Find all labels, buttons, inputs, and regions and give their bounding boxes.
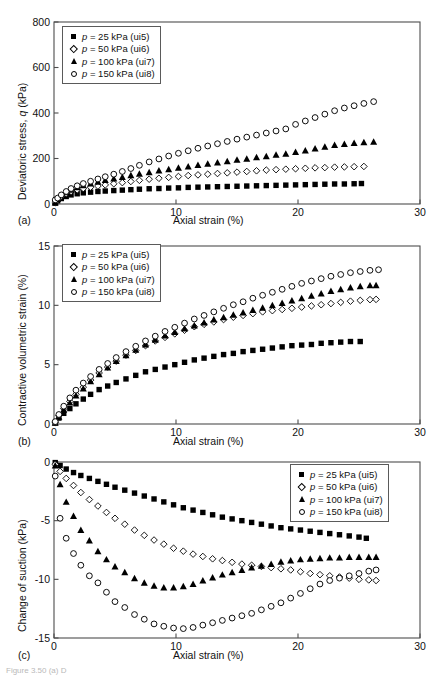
y-axis-label-c: Change of suction (kPa) — [16, 519, 28, 632]
y-axis-label-c-text: Change of suction (kPa) — [16, 519, 28, 632]
legend-item-ui8: p = 150 kPa (ui8) — [295, 506, 383, 519]
legend-item-ui6: p = 50 kPa (ui6) — [67, 43, 155, 56]
legend-item-ui8: p = 150 kPa (ui8) — [67, 286, 155, 299]
y-axis-label-a-text: Deviatoric stress, q (kPa) — [16, 83, 28, 200]
legend-label-ui5: p = 25 kPa (ui5) — [82, 249, 149, 260]
svg-text:600: 600 — [32, 61, 50, 73]
legend-item-ui6: p = 50 kPa (ui6) — [67, 261, 155, 274]
open-diamond-icon — [67, 46, 80, 52]
legend-label-ui5: p = 25 kPa (ui5) — [82, 31, 149, 42]
panel-letter-c: (c) — [18, 649, 30, 661]
series-open-circle — [52, 99, 376, 203]
legend-item-ui7: p = 100 kPa (ui7) — [67, 55, 155, 68]
legend-label-ui6: p = 50 kPa (ui6) — [82, 261, 149, 272]
legend-label-ui7: p = 100 kPa (ui7) — [310, 494, 383, 505]
legend-a: p = 25 kPa (ui5) p = 50 kPa (ui6) p = 10… — [62, 26, 161, 84]
svg-text:15: 15 — [38, 240, 50, 252]
legend-label-ui5: p = 25 kPa (ui5) — [310, 469, 377, 480]
legend-c: p = 25 kPa (ui5) p = 50 kPa (ui6) p = 10… — [290, 464, 389, 522]
legend-item-ui5: p = 25 kPa (ui5) — [295, 468, 383, 481]
svg-text:0: 0 — [44, 418, 50, 430]
legend-item-ui7: p = 100 kPa (ui7) — [295, 493, 383, 506]
svg-text:0: 0 — [51, 640, 57, 652]
svg-text:400: 400 — [32, 107, 50, 119]
svg-text:20: 20 — [292, 640, 304, 652]
filled-square-icon — [295, 472, 308, 478]
legend-label-ui6: p = 50 kPa (ui6) — [310, 481, 377, 492]
filled-square-icon — [67, 252, 80, 258]
legend-item-ui5: p = 25 kPa (ui5) — [67, 30, 155, 43]
svg-text:-5: -5 — [41, 514, 50, 526]
legend-label-ui7: p = 100 kPa (ui7) — [82, 56, 155, 67]
y-axis-label-b-text: Contractive volumetric strain (%) — [16, 274, 28, 426]
legend-label-ui8: p = 150 kPa (ui8) — [82, 286, 155, 297]
filled-square-icon — [67, 34, 80, 40]
svg-text:20: 20 — [292, 206, 304, 218]
panel-a: 01020300200400600800 Deviatoric stress, … — [0, 0, 443, 230]
open-circle-icon — [67, 71, 80, 77]
y-axis-label-b: Contractive volumetric strain (%) — [16, 274, 28, 426]
legend-label-ui8: p = 150 kPa (ui8) — [310, 506, 383, 517]
x-axis-label-a: Axial strain (%) — [173, 214, 244, 226]
svg-text:0: 0 — [44, 456, 50, 468]
panel-c: 01020300-5-10-15 Change of suction (kPa)… — [0, 452, 443, 677]
legend-b: p = 25 kPa (ui5) p = 50 kPa (ui6) p = 10… — [62, 244, 161, 302]
svg-text:0: 0 — [51, 206, 57, 218]
open-circle-icon — [295, 509, 308, 515]
svg-text:30: 30 — [414, 640, 426, 652]
panel-b: 0102030051015 Contractive volumetric str… — [0, 230, 443, 452]
open-circle-icon — [67, 289, 80, 295]
y-axis-label-a: Deviatoric stress, q (kPa) — [16, 83, 28, 200]
open-diamond-icon — [67, 264, 80, 270]
filled-triangle-icon — [67, 276, 80, 282]
series-open-diamond — [52, 296, 379, 425]
x-axis-label-c: Axial strain (%) — [173, 649, 244, 661]
svg-text:20: 20 — [292, 426, 304, 438]
legend-item-ui6: p = 50 kPa (ui6) — [295, 481, 383, 494]
filled-triangle-icon — [295, 496, 308, 502]
x-axis-label-b: Axial strain (%) — [173, 435, 244, 447]
figure-caption: Figure 3.50 (a) D — [6, 666, 66, 675]
filled-triangle-icon — [67, 58, 80, 64]
legend-label-ui6: p = 50 kPa (ui6) — [82, 43, 149, 54]
legend-item-ui5: p = 25 kPa (ui5) — [67, 248, 155, 261]
svg-text:0: 0 — [51, 426, 57, 438]
legend-item-ui8: p = 150 kPa (ui8) — [67, 68, 155, 81]
svg-text:800: 800 — [32, 16, 50, 28]
legend-item-ui7: p = 100 kPa (ui7) — [67, 273, 155, 286]
svg-text:30: 30 — [414, 206, 426, 218]
legend-label-ui7: p = 100 kPa (ui7) — [82, 274, 155, 285]
svg-text:-10: -10 — [35, 573, 50, 585]
panel-letter-b: (b) — [18, 435, 31, 447]
series-filled-square — [53, 339, 363, 426]
svg-text:0: 0 — [44, 198, 50, 210]
svg-text:30: 30 — [414, 426, 426, 438]
svg-text:5: 5 — [44, 358, 50, 370]
legend-label-ui8: p = 150 kPa (ui8) — [82, 68, 155, 79]
panel-letter-a: (a) — [18, 214, 31, 226]
open-diamond-icon — [295, 484, 308, 490]
svg-text:10: 10 — [38, 299, 50, 311]
svg-text:200: 200 — [32, 152, 50, 164]
svg-text:-15: -15 — [35, 632, 50, 644]
series-filled-triangle — [52, 138, 377, 205]
